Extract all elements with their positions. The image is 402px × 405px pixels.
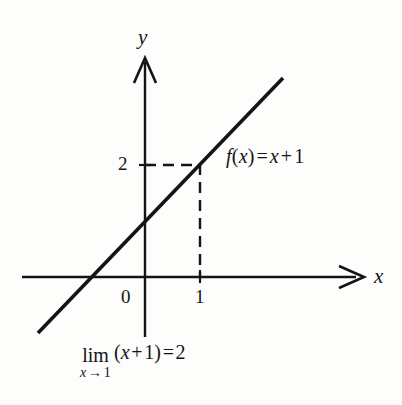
limit-operator-text: lim <box>82 345 109 365</box>
limit-body: (x + 1) = 2 <box>114 342 185 362</box>
fn-open-paren: ( <box>232 145 239 167</box>
limit-subscript-variable: x <box>80 365 87 380</box>
fn-term-x: x <box>270 145 279 167</box>
y-tick-label-2: 2 <box>118 154 128 173</box>
limit-body-result: 2 <box>176 341 186 363</box>
fn-plus-sign: + <box>281 145 292 167</box>
limit-caption: lim x → 1 (x + 1) = 2 <box>80 345 186 380</box>
limit-subscript-target: 1 <box>104 365 111 380</box>
y-axis-label: y <box>138 27 147 48</box>
coordinate-plot <box>0 0 402 405</box>
limit-body-equals-sign: = <box>163 341 174 363</box>
limit-body-variable: x <box>121 341 130 363</box>
fn-constant: 1 <box>294 145 304 167</box>
function-line <box>38 78 283 333</box>
limit-operator: lim x → 1 <box>80 345 111 380</box>
limit-body-constant: 1 <box>144 341 154 363</box>
x-tick-label-1: 1 <box>195 287 205 306</box>
limit-body-close-paren: ) <box>154 341 161 363</box>
limit-subscript: x → 1 <box>80 366 111 380</box>
x-tick-label-0: 0 <box>121 287 131 306</box>
limit-body-plus-sign: + <box>131 341 142 363</box>
fn-equals-sign: = <box>256 145 267 167</box>
figure-canvas: y x 2 0 1 f(x) = x + 1 lim x → 1 (x + 1)… <box>0 0 402 405</box>
fn-argument: x <box>239 145 248 167</box>
limit-body-open-paren: ( <box>114 341 121 363</box>
fn-close-paren: ) <box>248 145 255 167</box>
limit-subscript-arrow-icon: → <box>88 365 102 380</box>
x-axis-label: x <box>374 266 383 287</box>
function-equation-label: f(x) = x + 1 <box>226 146 304 166</box>
